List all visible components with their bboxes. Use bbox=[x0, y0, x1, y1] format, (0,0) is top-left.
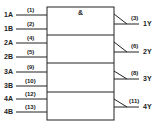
output-label: 2Y bbox=[143, 48, 152, 55]
logic-symbol-diagram: & 1A (1) 1B (2) (3) 1Y 2A (4) 2B (5) (6)… bbox=[0, 0, 155, 128]
gate-3: 3A (9) 3B (10) (8) 3Y bbox=[4, 64, 152, 89]
pin-number: (10) bbox=[25, 78, 36, 84]
and-symbol: & bbox=[78, 9, 83, 16]
pin-number: (2) bbox=[27, 21, 34, 27]
output-label: 1Y bbox=[143, 20, 152, 27]
input-label: 1A bbox=[4, 11, 13, 18]
pin-number: (4) bbox=[27, 35, 34, 41]
input-label: 3A bbox=[4, 68, 13, 75]
input-label: 1B bbox=[4, 25, 13, 32]
pin-number: (6) bbox=[131, 43, 138, 49]
pin-number: (12) bbox=[25, 91, 36, 97]
input-label: 4B bbox=[4, 108, 13, 115]
pin-number: (8) bbox=[131, 70, 138, 76]
output-label: 4Y bbox=[143, 103, 152, 110]
gate-2: 2A (4) 2B (5) (6) 2Y bbox=[4, 35, 152, 60]
output-label: 3Y bbox=[143, 75, 152, 82]
pin-number: (11) bbox=[129, 98, 139, 104]
input-label: 3B bbox=[4, 82, 13, 89]
input-label: 2A bbox=[4, 39, 13, 46]
input-label: 4A bbox=[4, 95, 13, 102]
pin-number: (1) bbox=[27, 7, 34, 13]
pin-number: (5) bbox=[27, 49, 34, 55]
gate-4: 4A (12) 4B (13) (11) 4Y bbox=[4, 91, 152, 115]
pin-number: (9) bbox=[27, 64, 34, 70]
pin-number: (3) bbox=[131, 15, 138, 21]
pin-number: (13) bbox=[25, 104, 36, 110]
input-label: 2B bbox=[4, 53, 13, 60]
